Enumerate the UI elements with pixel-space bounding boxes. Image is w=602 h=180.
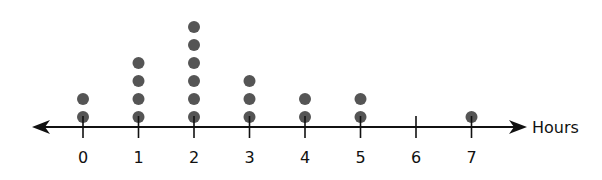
- data-dot: [77, 93, 89, 105]
- data-dot: [355, 93, 367, 105]
- dots: [77, 21, 478, 123]
- axis-label: Hours: [532, 118, 579, 137]
- data-dot: [188, 93, 200, 105]
- data-dot: [188, 57, 200, 69]
- tick-label: 0: [78, 148, 88, 167]
- data-dot: [133, 93, 145, 105]
- tick-label: 4: [300, 148, 310, 167]
- data-dot: [188, 39, 200, 51]
- tick-label: 1: [133, 148, 143, 167]
- data-dot: [133, 57, 145, 69]
- tick-label: 7: [466, 148, 476, 167]
- number-line: 01234567: [32, 116, 527, 167]
- data-dot: [244, 75, 256, 87]
- tick-label: 6: [411, 148, 421, 167]
- dot-plot: 01234567 Hours: [0, 0, 602, 180]
- data-dot: [244, 93, 256, 105]
- tick-label: 3: [244, 148, 254, 167]
- data-dot: [133, 75, 145, 87]
- data-dot: [299, 93, 311, 105]
- tick-label: 5: [355, 148, 365, 167]
- tick-label: 2: [189, 148, 199, 167]
- data-dot: [188, 21, 200, 33]
- data-dot: [188, 75, 200, 87]
